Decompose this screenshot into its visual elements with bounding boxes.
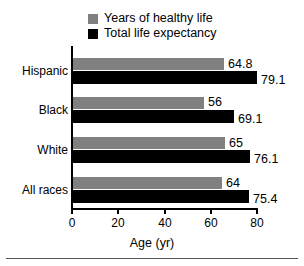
bar-total-all-races [73,190,249,203]
x-tick-label-0: 0 [69,216,76,230]
bar-healthy-black [73,97,204,109]
bar-value-total-black: 69.1 [238,112,262,126]
x-tick-label-80: 80 [250,216,263,230]
plot-area: Hispanic 64.8 79.1 Black 56 69.1 White 6… [0,0,304,266]
bar-healthy-all-races [73,177,222,189]
bar-value-total-hispanic: 79.1 [261,73,285,87]
bar-total-hispanic [73,71,257,84]
bar-healthy-hispanic [73,58,224,70]
bar-total-white [73,150,250,163]
x-tick-mark-80 [256,208,258,214]
x-tick-label-60: 60 [204,216,217,230]
x-tick-label-20: 20 [111,216,124,230]
bar-value-healthy-white: 65 [229,136,243,150]
bottom-divider [6,258,298,259]
bar-value-healthy-all-races: 64 [226,176,240,190]
category-label-hispanic: Hispanic [22,64,68,78]
bar-total-black [73,110,234,123]
chart-figure: Years of healthy life Total life expecta… [0,0,304,266]
bar-value-healthy-black: 56 [208,95,222,109]
x-axis-title: Age (yr) [0,236,304,250]
x-tick-mark-60 [210,208,212,214]
x-tick-label-40: 40 [158,216,171,230]
category-label-black: Black [39,103,68,117]
x-tick-mark-40 [164,208,166,214]
bar-value-total-all-races: 75.4 [253,192,277,206]
bar-healthy-white [73,137,225,149]
bar-value-total-white: 76.1 [254,152,278,166]
bar-value-healthy-hispanic: 64.8 [228,57,252,71]
x-tick-mark-0 [71,208,73,214]
category-label-all-races: All races [22,183,68,197]
category-label-white: White [37,143,68,157]
x-tick-mark-20 [117,208,119,214]
